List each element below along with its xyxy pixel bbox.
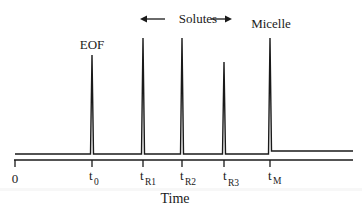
tick-label-sub: R1 [145,177,156,187]
left-arrow-icon [140,16,165,23]
tick-label-main: t [89,168,93,183]
tick-label-tR2: t R2 [180,168,196,187]
tick-label-main: t [223,168,227,183]
solutes-annotation: Solutes [140,11,232,26]
tick-label-sub: 0 [94,177,99,187]
tick-label-tR1: t R1 [140,168,156,187]
electropherogram-diagram: Solutes EOF Micelle 0 t 0 t [0,0,362,219]
tick-label-sub: R3 [228,178,239,188]
tick-label-main: t [268,168,272,183]
tick-label-tR3: t R3 [223,168,239,188]
tick-label-sub: M [273,176,282,186]
tick-label-sub: R2 [185,177,196,187]
tick-label-tM: t M [268,168,282,186]
signal-trace [15,38,353,154]
micelle-label: Micelle [251,16,291,31]
tick-label-main: t [140,168,144,183]
eof-label: EOF [80,37,105,52]
axis-title: Time [160,191,189,206]
tick-label-t0: t 0 [89,168,99,187]
tick-label-main: t [180,168,184,183]
axis-ticks [15,160,270,167]
tick-label-zero: 0 [12,171,19,186]
